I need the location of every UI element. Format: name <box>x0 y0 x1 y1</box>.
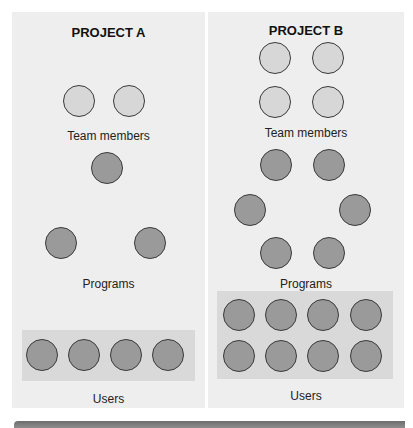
user-circle <box>265 340 297 372</box>
programs-label: Programs <box>208 277 404 291</box>
team-member-circle <box>63 85 95 117</box>
user-circle <box>307 299 339 331</box>
user-circle <box>110 339 142 371</box>
user-circle <box>223 299 255 331</box>
team-members-label: Team members <box>12 129 205 143</box>
user-circle <box>26 339 58 371</box>
users-box <box>217 291 393 379</box>
team-member-circle <box>259 86 291 118</box>
project-b-panel: PROJECT B Team members Programs Users <box>208 12 404 408</box>
program-circle <box>234 194 266 226</box>
user-circle <box>223 340 255 372</box>
user-circle <box>68 339 100 371</box>
project-a-panel: PROJECT A Team members Programs Users <box>12 12 205 408</box>
user-circle <box>265 299 297 331</box>
users-label: Users <box>208 389 404 403</box>
team-member-circle <box>259 42 291 74</box>
user-circle <box>350 340 382 372</box>
bottom-divider-bar <box>14 421 405 428</box>
program-circle <box>45 227 77 259</box>
team-member-circle <box>312 86 344 118</box>
program-circle <box>339 194 371 226</box>
users-label: Users <box>12 392 205 406</box>
program-circle <box>91 152 123 184</box>
user-circle <box>152 339 184 371</box>
programs-label: Programs <box>12 277 205 291</box>
team-members-label: Team members <box>208 126 404 140</box>
program-circle <box>260 149 292 181</box>
users-box <box>22 330 195 381</box>
program-circle <box>313 237 345 269</box>
team-member-circle <box>113 85 145 117</box>
program-circle <box>313 149 345 181</box>
team-member-circle <box>312 42 344 74</box>
user-circle <box>350 299 382 331</box>
project-a-title: PROJECT A <box>12 25 205 40</box>
user-circle <box>307 340 339 372</box>
program-circle <box>134 227 166 259</box>
program-circle <box>260 237 292 269</box>
project-b-title: PROJECT B <box>208 23 404 38</box>
